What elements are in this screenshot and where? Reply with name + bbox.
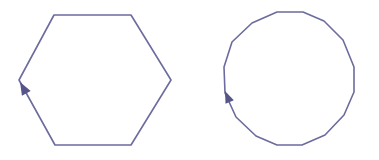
hexadecagon-figure	[224, 12, 354, 145]
hexadecagon-direction-arrow-icon	[225, 91, 234, 104]
polygon-diagram	[0, 0, 379, 160]
hexadecagon-shape	[224, 12, 354, 145]
hexagon-shape	[19, 15, 171, 145]
hexagon-direction-arrow-icon	[20, 82, 31, 96]
hexagon-figure	[19, 15, 171, 145]
